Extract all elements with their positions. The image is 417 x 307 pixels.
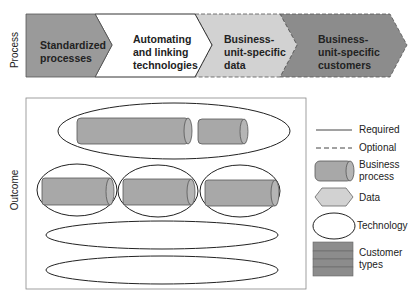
legend-optional: Optional: [316, 142, 396, 153]
svg-text:customers: customers: [318, 59, 371, 71]
svg-text:types: types: [359, 259, 383, 270]
svg-text:Optional: Optional: [359, 142, 396, 153]
diagram: Process Business- unit-specific customer…: [0, 0, 417, 307]
process-step-standardized: Standardized processes: [26, 14, 112, 77]
svg-text:Business: Business: [359, 159, 400, 170]
svg-text:processes: processes: [40, 52, 92, 64]
legend-customer-types: Customer types: [313, 242, 403, 276]
svg-text:Technology: Technology: [357, 220, 408, 231]
outcome-axis-label: Outcome: [9, 169, 20, 210]
ellipse-icon: [313, 213, 355, 239]
svg-text:Required: Required: [359, 124, 400, 135]
legend-required: Required: [316, 124, 400, 135]
process-step-technologies: Automating and linking technologies: [95, 14, 212, 77]
business-process-cylinder: [198, 119, 248, 144]
svg-text:process: process: [359, 171, 394, 182]
svg-text:Automating: Automating: [133, 33, 191, 45]
process-axis-label: Process: [9, 32, 20, 68]
svg-text:technologies: technologies: [133, 59, 198, 71]
svg-text:Business-: Business-: [224, 33, 275, 45]
svg-text:data: data: [224, 59, 246, 71]
stacked-bars-icon: [313, 242, 353, 276]
legend-technology: Technology: [313, 213, 408, 239]
business-process-cylinder: [77, 118, 192, 144]
legend-business-process: Business process: [315, 159, 400, 182]
hexagon-icon: [315, 188, 353, 206]
svg-text:unit-specific: unit-specific: [318, 46, 380, 58]
legend: Required Optional Business process Data …: [313, 124, 408, 276]
svg-text:Data: Data: [359, 192, 381, 203]
legend-data: Data: [315, 188, 381, 206]
svg-text:Business-: Business-: [318, 33, 369, 45]
svg-text:Customer: Customer: [359, 247, 403, 258]
svg-text:Standardized: Standardized: [40, 39, 106, 51]
cylinder-icon: [315, 161, 354, 181]
svg-text:unit-specific: unit-specific: [224, 46, 286, 58]
process-step-customers: Business- unit-specific customers: [280, 14, 407, 77]
svg-text:and linking: and linking: [133, 46, 188, 58]
